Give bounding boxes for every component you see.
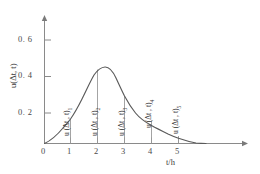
ordinate-label-2: u (Δt , t)2 <box>90 108 101 136</box>
y-axis-arrow <box>42 15 47 21</box>
x-tick-label-5: 5 <box>175 146 180 156</box>
x-axis-arrow <box>242 141 248 147</box>
ordinate-label-5-text: u (Δt , t) <box>171 108 180 134</box>
ordinate-label-5-sub: 5 <box>176 106 182 109</box>
ordinate-label-4-sub: 4 <box>149 100 155 103</box>
ordinate-label-5: u (Δt , t)5 <box>171 106 182 134</box>
y-tick-label-06: 0. 6 <box>18 34 32 44</box>
ordinate-label-4: u (Δt , t)4 <box>144 100 155 128</box>
ordinate-label-3: u (Δt , t)3 <box>117 108 128 136</box>
y-tick-label-04: 0. 4 <box>18 70 32 80</box>
y-tick-label-02: 0. 2 <box>18 107 32 117</box>
x-tick-label-2: 2 <box>94 146 99 156</box>
ordinate-label-1-text: u (Δt , t) <box>62 110 71 136</box>
x-tick-label-4: 4 <box>148 146 153 156</box>
ordinate-label-1-sub: 1 <box>67 108 73 111</box>
x-tick-label-1: 1 <box>67 146 72 156</box>
ordinate-label-1: u (Δt , t)1 <box>62 108 73 136</box>
ordinate-label-2-text: u (Δt , t) <box>90 110 99 136</box>
hydrograph-chart: u(Δt, t) 0. 6 0. 4 0. 2 0 1 2 3 4 5 t/h … <box>0 0 260 174</box>
x-axis-title: t/h <box>166 157 175 167</box>
ordinate-label-2-sub: 2 <box>95 108 101 111</box>
x-tick-label-0: 0 <box>41 146 46 156</box>
ordinate-label-4-text: u (Δt , t) <box>144 102 153 128</box>
x-tick-label-3: 3 <box>121 146 126 156</box>
y-axis-title: u(Δt, t) <box>8 63 18 88</box>
ordinate-label-3-sub: 3 <box>122 108 128 111</box>
ordinate-label-3-text: u (Δt , t) <box>117 110 126 136</box>
plot-area <box>0 0 260 174</box>
